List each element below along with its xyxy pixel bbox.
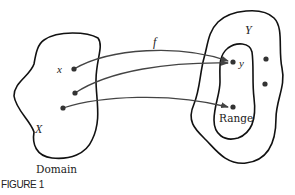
codomain-element-label: y [238,57,244,69]
domain-point-x [71,66,76,71]
domain-name-label: Domain [36,163,77,175]
mapping-arrow-2 [75,63,228,93]
domain-element-label: x [56,63,62,75]
domain-point-2 [72,90,77,95]
range-point-y [230,59,235,64]
range-label: Range [219,112,253,124]
codomain-set-outline [191,11,283,163]
range-point-2 [230,104,235,109]
function-mapping-diagram: f x X Domain Y y Range FIGURE 1 [0,0,295,195]
codomain-point-1 [263,56,268,61]
codomain-point-2 [262,81,267,86]
domain-set-outline [14,33,100,158]
codomain-set-label: Y [245,23,253,37]
domain-point-3 [60,105,65,110]
function-label: f [153,35,158,49]
mapping-arrow-3 [63,97,228,108]
domain-set-label: X [34,122,43,136]
figure-caption: FIGURE 1 [1,179,45,190]
